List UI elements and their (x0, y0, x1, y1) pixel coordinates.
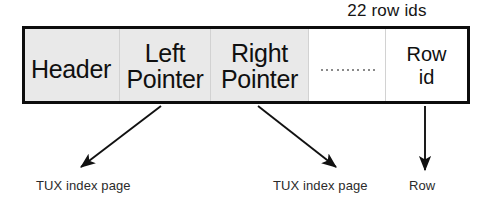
row-ids-caption: 22 row ids (322, 1, 452, 21)
cell-right-pointer-label: Right Pointer (221, 40, 298, 92)
caption-right-pointer-target: TUX index page (273, 178, 368, 194)
cell-row-id: Row id (385, 29, 467, 101)
ellipsis-dots-icon (321, 68, 375, 71)
arrow-left-pointer (81, 106, 161, 167)
cell-ellipsis (308, 29, 385, 101)
record-layout-box: Header Left Pointer Right Pointer Row id (22, 26, 470, 104)
cell-right-pointer: Right Pointer (210, 29, 308, 101)
caption-left-pointer-target: TUX index page (36, 178, 131, 194)
caption-row-id-target: Row (409, 178, 435, 194)
tux-index-page-diagram: 22 row ids Header Left Pointer Right Poi… (0, 0, 497, 214)
cell-header-label: Header (31, 56, 111, 82)
cell-header: Header (25, 29, 119, 101)
cell-row-id-label: Row id (406, 43, 446, 89)
arrow-right-pointer (258, 106, 336, 167)
record-cells: Header Left Pointer Right Pointer Row id (25, 29, 467, 101)
cell-left-pointer: Left Pointer (119, 29, 210, 101)
cell-left-pointer-label: Left Pointer (126, 40, 203, 92)
